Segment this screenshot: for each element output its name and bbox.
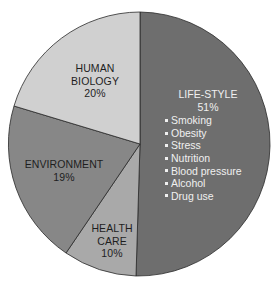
pie-chart: HUMAN BIOLOGY 20% ENVIRONMENT 19% HEALTH…	[0, 0, 280, 293]
label-environment: ENVIRONMENT 19%	[24, 158, 104, 183]
health-care-line2: CARE	[88, 235, 136, 248]
bullet-icon	[165, 119, 168, 122]
bullet-icon	[165, 157, 168, 160]
lifestyle-factor-list: Smoking Obesity Stress Nutrition Blood p…	[162, 114, 262, 202]
list-item: Nutrition	[162, 152, 262, 165]
lifestyle-pct: 51%	[162, 101, 254, 114]
human-biology-pct: 20%	[70, 87, 120, 100]
bullet-icon	[165, 144, 168, 147]
bullet-icon	[165, 169, 168, 172]
label-lifestyle: LIFE-STYLE 51% Smoking Obesity Stress Nu…	[162, 88, 262, 202]
label-health-care: HEALTH CARE 10%	[88, 222, 136, 260]
list-item: Obesity	[162, 127, 262, 140]
bullet-icon	[165, 194, 168, 197]
lifestyle-name: LIFE-STYLE	[162, 88, 254, 101]
list-item: Blood pressure	[162, 165, 262, 178]
list-item: Stress	[162, 139, 262, 152]
health-care-line1: HEALTH	[88, 222, 136, 235]
list-item: Smoking	[162, 114, 262, 127]
bullet-icon	[165, 182, 168, 185]
environment-pct: 19%	[24, 171, 104, 184]
human-biology-line1: HUMAN	[70, 62, 120, 75]
human-biology-line2: BIOLOGY	[70, 75, 120, 88]
health-care-pct: 10%	[88, 247, 136, 260]
list-item: Alcohol	[162, 177, 262, 190]
label-human-biology: HUMAN BIOLOGY 20%	[70, 62, 120, 100]
environment-name: ENVIRONMENT	[24, 158, 104, 171]
list-item: Drug use	[162, 190, 262, 203]
bullet-icon	[165, 132, 168, 135]
